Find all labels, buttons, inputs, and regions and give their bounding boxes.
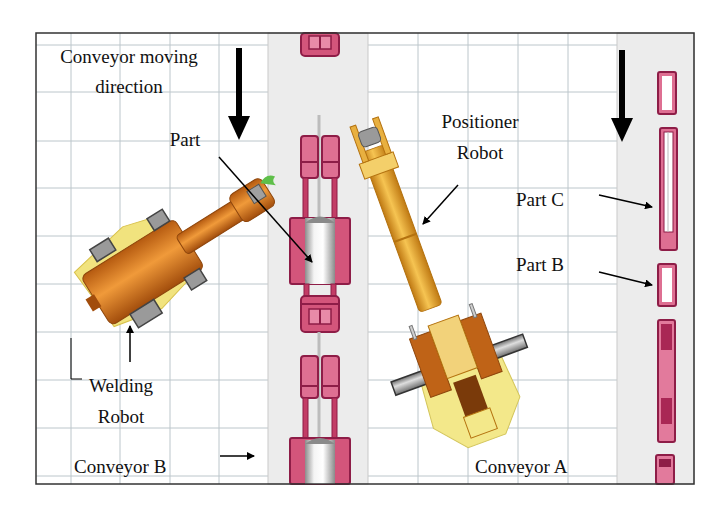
conveyor-direction-line2: direction [36,76,222,98]
positioner-robot-label: Positioner Robot [420,111,540,164]
part-c-fixture [660,128,677,250]
welding-line2: Robot [66,406,176,428]
positioner-line1: Positioner [420,111,540,133]
fixture-b-top [301,33,339,56]
welding-line1: Welding [66,375,176,397]
conveyor-a [617,33,694,484]
part-c-label: Part C [516,189,564,211]
fixture-a-4 [658,320,675,442]
part-b-label: Part B [516,254,564,276]
conveyor-b-label: Conveyor B [74,456,166,478]
fixture-a-5 [656,455,674,484]
conveyor-direction-line1: Conveyor moving [36,46,222,68]
welding-robot-label: Welding Robot [66,375,176,428]
fixture-a-1 [658,72,676,114]
part-b-fixture [658,264,676,306]
positioner-line2: Robot [420,142,540,164]
conveyor-b [268,33,368,484]
conveyor-direction-label: Conveyor moving direction [36,46,222,98]
part-label: Part [160,129,210,151]
conveyor-a-label: Conveyor A [475,456,567,478]
robot-cell-diagram: Conveyor moving direction Part Positione… [0,0,726,508]
